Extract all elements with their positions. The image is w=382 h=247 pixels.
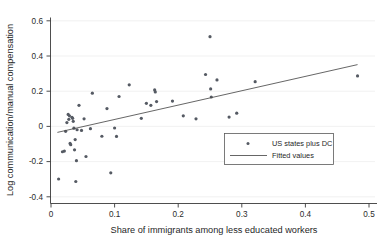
fitted-values-line bbox=[57, 65, 357, 133]
data-point bbox=[109, 171, 112, 174]
data-point bbox=[145, 102, 148, 105]
data-point bbox=[254, 80, 257, 83]
gridlines bbox=[51, 21, 375, 197]
data-point bbox=[128, 83, 131, 86]
scatter-plot-figure: 0.6 0.4 0.2 0 -0.2 -0.4 0 0.1 0.2 0.3 0.… bbox=[0, 0, 382, 247]
chart-legend: US states plus DC Fitted values bbox=[225, 134, 334, 165]
data-point bbox=[117, 95, 120, 98]
data-point bbox=[208, 35, 211, 38]
data-point bbox=[84, 155, 87, 158]
data-point bbox=[115, 135, 118, 138]
y-tick-label-0: 0 bbox=[38, 122, 43, 131]
y-tick-label-0.6: 0.6 bbox=[32, 17, 44, 26]
data-point bbox=[215, 78, 218, 81]
x-tick-label-0.3: 0.3 bbox=[236, 210, 248, 219]
y-axis: 0.6 0.4 0.2 0 -0.2 -0.4 bbox=[29, 17, 51, 204]
data-point bbox=[100, 135, 103, 138]
x-axis-title: Share of immigrants among less educated … bbox=[111, 225, 318, 235]
chart-canvas: 0.6 0.4 0.2 0 -0.2 -0.4 0 0.1 0.2 0.3 0.… bbox=[0, 0, 382, 247]
data-point bbox=[356, 74, 359, 77]
legend-label-states: US states plus DC bbox=[272, 139, 333, 148]
data-point bbox=[74, 180, 77, 183]
data-point bbox=[57, 177, 60, 180]
x-tick-label-0.4: 0.4 bbox=[300, 210, 312, 219]
data-point bbox=[65, 121, 68, 124]
y-tick-label-0.4: 0.4 bbox=[32, 52, 44, 61]
data-point bbox=[154, 90, 157, 93]
data-point bbox=[69, 143, 72, 146]
data-point bbox=[91, 92, 94, 95]
data-point bbox=[74, 138, 77, 141]
data-point bbox=[149, 104, 152, 107]
data-point bbox=[105, 107, 108, 110]
data-point bbox=[235, 112, 238, 115]
x-tick-label-0: 0 bbox=[49, 210, 54, 219]
y-axis-title: Log communication/manual compensation bbox=[5, 24, 15, 196]
data-point bbox=[75, 159, 78, 162]
data-point bbox=[227, 115, 230, 118]
x-tick-label-0.1: 0.1 bbox=[109, 210, 121, 219]
data-point bbox=[155, 100, 158, 103]
data-point bbox=[82, 117, 85, 120]
data-point bbox=[67, 118, 70, 121]
data-point bbox=[77, 104, 80, 107]
data-point bbox=[71, 117, 74, 120]
data-point bbox=[171, 99, 174, 102]
data-point bbox=[73, 148, 76, 151]
legend-marker-icon bbox=[247, 142, 250, 145]
data-point bbox=[194, 117, 197, 120]
y-tick-label--0.4: -0.4 bbox=[29, 193, 44, 202]
y-tick-label--0.2: -0.2 bbox=[29, 157, 44, 166]
data-point bbox=[204, 73, 207, 76]
data-point bbox=[72, 120, 75, 123]
data-point bbox=[80, 129, 83, 132]
x-tick-label-0.5: 0.5 bbox=[363, 210, 375, 219]
data-point bbox=[209, 87, 212, 90]
x-axis: 0 0.1 0.2 0.3 0.4 0.5 bbox=[49, 204, 377, 220]
x-tick-label-0.2: 0.2 bbox=[173, 210, 185, 219]
data-point bbox=[113, 126, 116, 129]
y-tick-label-0.2: 0.2 bbox=[32, 87, 44, 96]
data-point bbox=[182, 114, 185, 117]
data-point bbox=[140, 117, 143, 120]
data-point bbox=[89, 127, 92, 130]
data-point bbox=[75, 128, 78, 131]
data-point bbox=[63, 149, 66, 152]
legend-label-fitted: Fitted values bbox=[272, 151, 314, 160]
